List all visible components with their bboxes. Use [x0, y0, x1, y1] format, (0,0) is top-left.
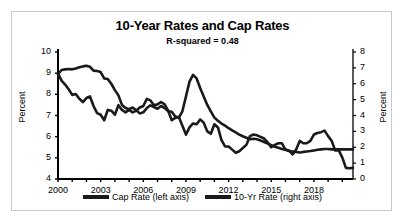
- y-axis-right-tick: 1: [360, 157, 376, 167]
- y-axis-right-tick: 4: [360, 110, 376, 120]
- y-axis-right-tick: 3: [360, 125, 376, 135]
- y-axis-right-tick: 6: [360, 78, 376, 88]
- series-line: [58, 66, 353, 153]
- legend-swatch-icon: [83, 195, 109, 199]
- y-axis-right-tick: 2: [360, 141, 376, 151]
- legend-swatch-icon: [205, 195, 231, 199]
- y-axis-left-tick: 4: [35, 173, 51, 183]
- legend-item-cap-rate: Cap Rate (left axis): [83, 192, 189, 202]
- y-axis-left-tick: 7: [35, 110, 51, 120]
- chart-container: 10-Year Rates and Cap Rates R-squared = …: [11, 11, 392, 211]
- legend-label: Cap Rate (left axis): [112, 192, 189, 202]
- plot-area: [12, 12, 393, 212]
- y-axis-left-tick: 5: [35, 152, 51, 162]
- y-axis-left-tick: 9: [35, 67, 51, 77]
- y-axis-left-tick: 6: [35, 131, 51, 141]
- y-axis-left-tick: 10: [35, 46, 51, 56]
- y-axis-right-tick: 0: [360, 173, 376, 183]
- y-axis-left-tick: 8: [35, 88, 51, 98]
- chart-legend: Cap Rate (left axis) 10-Yr Rate (right a…: [12, 192, 393, 202]
- series-group: [58, 66, 353, 168]
- series-line: [58, 73, 353, 168]
- y-axis-right-tick: 7: [360, 62, 376, 72]
- y-axis-right-tick: 5: [360, 94, 376, 104]
- legend-item-10yr-rate: 10-Yr Rate (right axis): [205, 192, 322, 202]
- legend-label: 10-Yr Rate (right axis): [234, 192, 322, 202]
- y-axis-right-tick: 8: [360, 46, 376, 56]
